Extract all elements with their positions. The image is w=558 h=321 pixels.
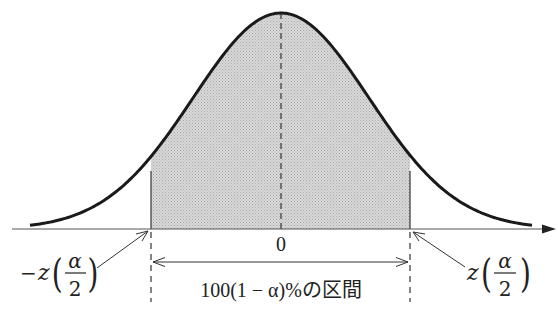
confidence-interval-diagram: 0 100(1 − α)%の区間 − z ( α 2 ) z ( α 2 ): [0, 0, 558, 321]
right-bound-pointer: [413, 232, 465, 267]
interval-label: 100(1 − α)%の区間: [200, 279, 362, 302]
svg-text:(: (: [481, 250, 492, 296]
svg-text:α: α: [68, 249, 82, 273]
svg-text:2: 2: [499, 277, 512, 301]
svg-text:2: 2: [69, 277, 82, 301]
svg-text:α: α: [498, 249, 512, 273]
svg-text:−: −: [20, 261, 37, 285]
svg-text:(: (: [52, 250, 63, 296]
svg-text:): ): [88, 250, 99, 296]
center-zero-label: 0: [276, 233, 286, 255]
svg-text:z: z: [466, 260, 479, 285]
svg-text:): ): [520, 250, 531, 296]
left-bound-pointer: [97, 231, 148, 268]
left-bound-label: − z ( α 2 ): [20, 249, 98, 301]
right-bound-label: z ( α 2 ): [466, 249, 531, 301]
x-axis-arrowhead: [542, 225, 556, 234]
svg-text:z: z: [37, 260, 50, 285]
